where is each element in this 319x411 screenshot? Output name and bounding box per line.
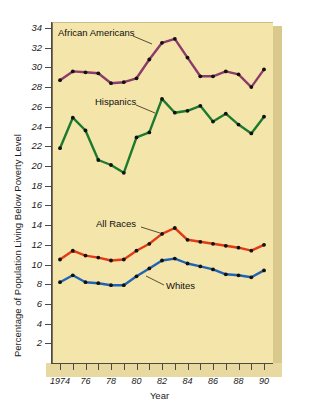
x-axis-title: Year	[0, 390, 319, 401]
y-axis-title: Percentage of Population Living Below Po…	[12, 134, 23, 357]
chart-root: 246810121416182022242628303234 197476788…	[0, 0, 319, 411]
label-leader-lines	[0, 0, 319, 411]
